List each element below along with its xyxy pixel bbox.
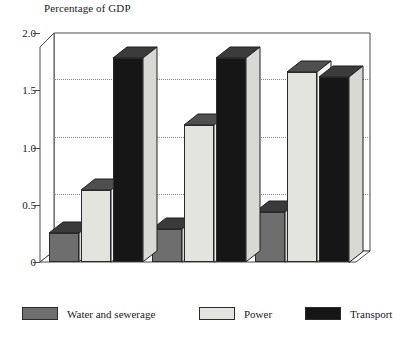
bar-front-face	[184, 125, 214, 262]
legend-swatch	[199, 307, 235, 320]
legend-item-1[interactable]: Power	[199, 307, 272, 320]
legend-item-2[interactable]: Transport	[305, 307, 392, 320]
bar-front-face	[81, 190, 111, 262]
legend-label: Transport	[350, 308, 392, 320]
bar-front-face	[319, 77, 349, 262]
bar-front-face	[287, 72, 317, 262]
bar-front-face	[113, 58, 143, 262]
bar-transport-undefined	[319, 66, 349, 262]
chart-legend: Water and seweragePowerTransport	[0, 305, 409, 325]
bars-layer	[0, 0, 409, 343]
bar-power-undefined	[81, 179, 111, 262]
bar-front-face	[216, 58, 246, 262]
legend-item-0[interactable]: Water and sewerage	[22, 307, 155, 320]
bar-water-undefined	[49, 222, 79, 262]
legend-label: Power	[244, 308, 272, 320]
legend-label: Water and sewerage	[67, 308, 155, 320]
bar-transport-undefined	[216, 47, 246, 262]
legend-swatch	[305, 307, 341, 320]
legend-swatch	[22, 307, 58, 320]
bar-power-undefined	[184, 114, 214, 262]
bar-chart: Percentage of GDP 2.01.51.00.50 Water an…	[0, 0, 409, 343]
bar-power-undefined	[287, 61, 317, 262]
bar-transport-undefined	[113, 47, 143, 262]
bar-front-face	[49, 233, 79, 262]
